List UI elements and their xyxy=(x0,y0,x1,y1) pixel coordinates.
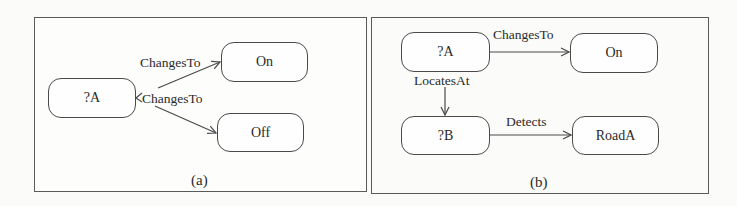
edge-label-a-changesto-on: ChangesTo xyxy=(140,56,201,70)
edge-label-b-detects: Detects xyxy=(506,115,546,129)
node-b-on: On xyxy=(570,33,658,73)
node-b-roada: RoadA xyxy=(572,116,659,155)
caption-b: (b) xyxy=(530,175,548,190)
edge-label-b-changesto: ChangesTo xyxy=(493,28,554,42)
caption-a: (a) xyxy=(191,173,208,188)
node-b-var-a: ?A xyxy=(401,32,490,72)
node-a-off: Off xyxy=(217,113,304,152)
node-a-on: On xyxy=(221,42,308,82)
edge-label-b-locatesat: LocatesAt xyxy=(414,74,469,88)
node-a-var-a: ?A xyxy=(48,78,136,118)
node-b-var-b: ?B xyxy=(401,116,490,155)
edge-label-a-changesto-off: ChangesTo xyxy=(142,92,203,106)
